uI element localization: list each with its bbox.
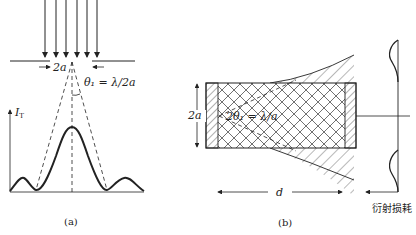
- angle-label-a: θ₁ = λ/2a: [84, 76, 135, 89]
- caption-b: (b): [278, 217, 292, 228]
- loss-profile-top: [390, 40, 398, 82]
- loss-label: 衍射损耗: [372, 202, 412, 214]
- diffraction-diagram: 2a θ₁ = λ/2a IT (a) 2θ₁ = λ/a: [0, 0, 416, 235]
- angle-label-b: 2θ₁ = λ/a: [225, 110, 277, 123]
- length-label: d: [276, 186, 283, 199]
- incident-rays: [45, 0, 97, 57]
- intensity-curve: [10, 127, 144, 191]
- right-mirror: [345, 83, 356, 148]
- angle-arc: [72, 94, 80, 95]
- caption-a: (a): [64, 216, 78, 227]
- loss-profile-bottom: [390, 150, 398, 192]
- axis-label: IT: [14, 106, 24, 120]
- height-label: 2a: [187, 109, 202, 122]
- left-mirror: [206, 83, 218, 148]
- panel-a: 2a θ₁ = λ/2a IT (a): [10, 0, 144, 227]
- panel-b: 2θ₁ = λ/a 2a d 衍射损耗 (b): [187, 40, 412, 228]
- slit-width-label: 2a: [52, 61, 67, 74]
